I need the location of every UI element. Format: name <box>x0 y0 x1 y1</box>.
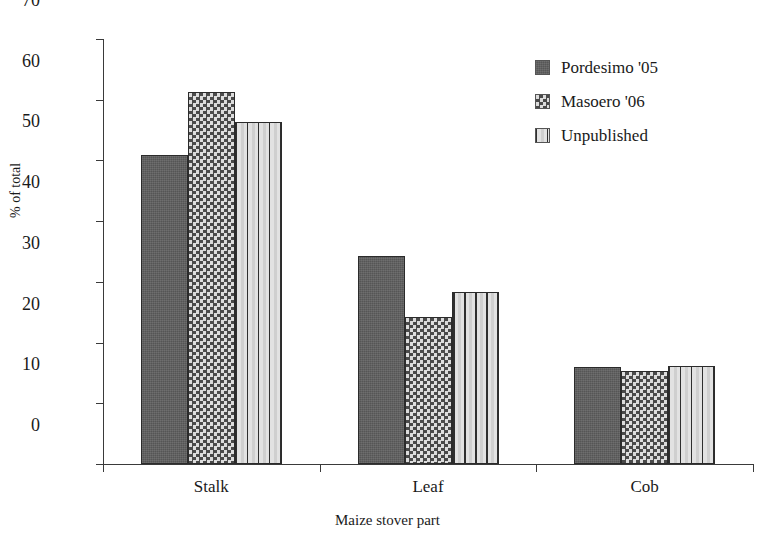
y-axis-tick-label: 50 <box>0 112 40 130</box>
bar <box>188 92 235 464</box>
legend-swatch-solid-gray-icon <box>535 60 550 75</box>
legend-item-1: Masoero '06 <box>535 84 765 118</box>
y-axis-tick-label: 70 <box>0 0 40 9</box>
y-axis-tick-label: 0 <box>0 416 40 434</box>
y-axis-tick <box>96 160 103 161</box>
x-axis-category-label: Cob <box>585 477 705 497</box>
bar <box>358 256 405 464</box>
x-axis-tick <box>536 464 537 472</box>
x-axis-tick <box>753 464 754 472</box>
x-axis-tick <box>103 464 104 472</box>
bar <box>452 292 499 464</box>
y-axis-tick <box>96 464 103 465</box>
legend-item-2: Unpublished <box>535 118 765 152</box>
y-axis-tick <box>96 221 103 222</box>
bar <box>405 317 452 464</box>
y-axis-tick-labels: 706050403020100 <box>0 0 40 426</box>
x-axis-line <box>103 464 753 465</box>
bar <box>668 366 715 464</box>
legend-swatch-checkerboard-icon <box>535 94 550 109</box>
bar <box>574 367 621 464</box>
legend-label-2: Unpublished <box>561 127 648 144</box>
legend-label-0: Pordesimo '05 <box>561 59 658 76</box>
y-axis-tick-label: 20 <box>0 295 40 313</box>
legend-item-0: Pordesimo '05 <box>535 50 765 84</box>
y-axis-tick-label: 30 <box>0 234 40 252</box>
bar <box>141 155 188 464</box>
x-axis-title: Maize stover part <box>0 512 775 529</box>
chart-legend: Pordesimo '05 Masoero '06 Unpublished <box>535 50 765 152</box>
y-axis-tick <box>96 343 103 344</box>
x-axis-tick <box>320 464 321 472</box>
x-axis-category-label: Stalk <box>151 477 271 497</box>
y-axis-tick <box>96 403 103 404</box>
y-axis-tick <box>96 100 103 101</box>
bar-group <box>141 39 282 464</box>
bar <box>621 371 668 465</box>
bar-group <box>358 39 499 464</box>
bar <box>235 122 282 464</box>
y-axis-tick-label: 60 <box>0 52 40 70</box>
y-axis-tick <box>96 282 103 283</box>
y-axis-tick <box>96 39 103 40</box>
y-axis-tick-label: 10 <box>0 355 40 373</box>
legend-label-1: Masoero '06 <box>561 93 645 110</box>
y-axis-tick-label: 40 <box>0 173 40 191</box>
bar-chart: % of total 706050403020100 StalkLeafCob … <box>0 0 775 555</box>
legend-swatch-vertical-stripes-icon <box>535 128 550 143</box>
x-axis-category-label: Leaf <box>368 477 488 497</box>
